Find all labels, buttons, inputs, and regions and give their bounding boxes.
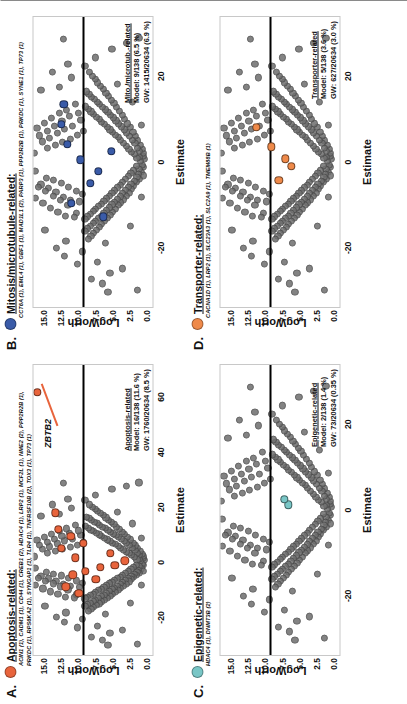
highlighted-gene-point [33, 388, 41, 396]
y-tick-label: 12.5 [242, 658, 252, 674]
data-point [52, 245, 59, 252]
stats-annotation-title: Mito./microtub.-related [122, 21, 131, 103]
data-point [48, 530, 55, 537]
data-point [231, 493, 238, 500]
data-point [222, 132, 229, 139]
y-tick-label: 2.5 [124, 658, 134, 670]
data-point [313, 222, 320, 229]
data-point [63, 525, 70, 532]
data-point [261, 109, 268, 116]
data-point [233, 483, 240, 490]
y-tick-label: 2.5 [311, 658, 321, 670]
data-point [75, 198, 82, 205]
data-point [242, 431, 249, 438]
y-tick-label: 15.0 [225, 658, 235, 674]
data-point [104, 642, 111, 649]
data-point [101, 239, 108, 246]
panel-letter: D. [190, 337, 205, 350]
data-point [39, 585, 46, 592]
legend-header: Mitosis/microtubule-related: [4, 173, 16, 330]
data-point [88, 276, 95, 283]
data-point [41, 227, 48, 234]
x-axis-label: Estimate [173, 16, 185, 308]
data-point [48, 501, 55, 508]
data-point [239, 593, 246, 600]
data-point [219, 543, 226, 550]
data-point [52, 614, 59, 621]
data-point [233, 204, 240, 211]
data-point [261, 457, 268, 464]
data-point [245, 487, 252, 494]
data-point [241, 209, 248, 216]
data-point [70, 214, 77, 221]
y-tick-label: 2.5 [124, 310, 134, 322]
data-point [260, 609, 267, 616]
data-point [238, 490, 245, 497]
data-point [32, 195, 39, 202]
data-point [106, 630, 113, 637]
data-point [43, 127, 50, 134]
data-point [227, 119, 234, 126]
data-point [68, 122, 75, 129]
stats-annotation: Epigenetic-relatedModel: 2/138 (1.4 %)GW… [309, 369, 337, 447]
data-point [242, 83, 249, 90]
x-tick-label: 20 [155, 71, 165, 81]
data-point [249, 585, 256, 592]
data-point [313, 570, 320, 577]
legend-header: Transporter-related: [191, 214, 203, 330]
data-point [33, 124, 40, 131]
data-point [91, 54, 98, 61]
data-point [291, 288, 298, 295]
data-point [235, 417, 242, 424]
stats-annotation: Mito./microtub.-relatedModel: 9/138 (6.5… [122, 21, 150, 103]
data-point [293, 269, 300, 276]
x-tick-label: -20 [342, 242, 352, 254]
data-point [253, 135, 260, 142]
data-point [271, 235, 278, 242]
zero-reference-line [269, 365, 271, 655]
data-point [119, 265, 126, 272]
stats-annotation-genomewide: GW: 1415/20634 (6.9 %) [141, 21, 150, 103]
data-point [84, 235, 91, 242]
data-point [321, 634, 328, 641]
highlighted-gene-point [50, 509, 58, 517]
y-tick-label: 12.5 [55, 310, 65, 326]
y-tick-label: 7.5 [277, 310, 287, 322]
data-point [255, 470, 262, 477]
highlighted-gene-point [57, 544, 65, 552]
x-axis-label: Estimate [360, 364, 372, 656]
data-point [237, 123, 244, 130]
data-point [295, 393, 302, 400]
y-tick-label: 0.0 [328, 310, 338, 322]
data-point [219, 516, 225, 523]
data-point [259, 187, 266, 194]
data-point [67, 504, 74, 511]
y-tick-label: 15.0 [38, 310, 48, 326]
data-point [278, 54, 285, 61]
data-point [240, 130, 247, 137]
figure-root: A.Apoptosis-related:ACIN1 (1), CADM1 (1)… [0, 0, 407, 704]
data-point [51, 142, 58, 149]
data-point [230, 127, 237, 134]
data-point [37, 87, 44, 94]
x-tick-label: 20 [342, 71, 352, 81]
data-point [238, 142, 245, 149]
y-tick-label: 12.5 [242, 310, 252, 326]
y-tick-label: 0.0 [141, 310, 151, 322]
data-point [252, 113, 259, 120]
data-point [231, 145, 238, 152]
data-point [123, 482, 130, 489]
y-tick-label: 10.0 [72, 658, 82, 674]
data-point [53, 130, 60, 137]
data-point [246, 36, 253, 43]
data-point [233, 552, 240, 559]
highlighted-gene-point [57, 120, 65, 128]
stats-annotation-title: Transporter-related [309, 21, 318, 99]
y-tick-label: 15.0 [225, 310, 235, 326]
data-point [224, 435, 231, 442]
data-point [62, 237, 69, 244]
data-point [34, 183, 41, 190]
data-point [64, 60, 71, 67]
highlighted-gene-point [252, 123, 260, 131]
highlighted-gene-point [81, 567, 89, 575]
